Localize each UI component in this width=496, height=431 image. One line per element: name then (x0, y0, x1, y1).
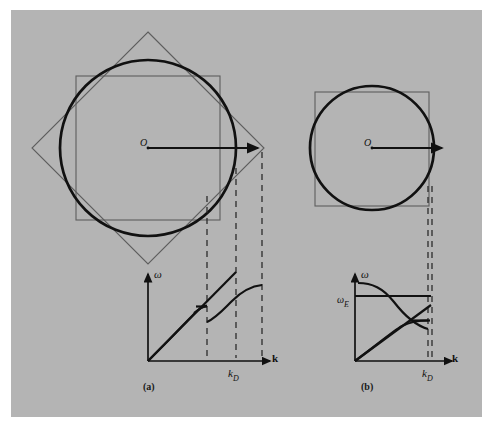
panel-a-dispersion-plot (148, 272, 270, 361)
physics-figure: O ω k kD (a) O ω ωE k kD (b) (0, 0, 496, 431)
panel-a-omega-axis-label: ω (154, 268, 162, 280)
plot-a-branch-second-zone (207, 285, 262, 322)
panel-b-kd-d: D (427, 374, 433, 383)
panel-b-kd-tick-label: kD (422, 363, 433, 383)
panel-b-caption: (b) (361, 381, 373, 392)
panel-a-caption: (a) (143, 381, 155, 392)
panel-a-k-axis-label: k (272, 352, 278, 364)
panel-a-kd-d: D (233, 374, 239, 383)
panel-b-omega-e-label: ωE (337, 289, 349, 309)
panel-b-k-axis-label: k (452, 352, 458, 364)
panel-a-center-label: O (140, 137, 147, 148)
panel-a-dashed-guides (207, 152, 262, 358)
panel-b-omega-e-omega: ω (337, 294, 344, 305)
panel-b-omega-e-e: E (344, 300, 349, 309)
plot-a-branch-lower-saturating (148, 306, 207, 362)
panel-b-dashed-guides (428, 186, 432, 358)
panel-b-zone-construction (310, 86, 442, 210)
panel-b-omega-axis-label: ω (361, 268, 369, 280)
panel-b-dispersion-plot (355, 274, 452, 361)
panel-a-zone-construction (32, 32, 264, 264)
panel-a-kd-tick-label: kD (228, 363, 239, 383)
panel-b-center-label: O (364, 137, 371, 148)
plot-b-acoustic-branch-lower (355, 321, 428, 362)
